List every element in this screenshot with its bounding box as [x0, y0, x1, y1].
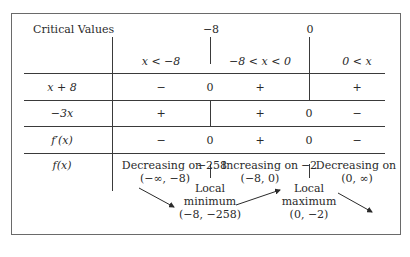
arrow-down-icon: [139, 188, 174, 207]
trend-arrows: [0, 0, 410, 257]
arrow-up-icon: [236, 190, 280, 205]
arrow-down-icon: [338, 193, 372, 212]
